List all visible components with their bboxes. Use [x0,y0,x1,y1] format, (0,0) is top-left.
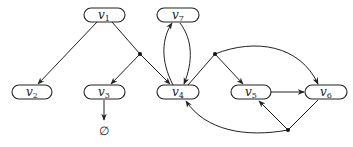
node-v1: v1 [84,8,125,23]
edge-j1-v4 [140,54,170,84]
edge-v1-v2 [38,22,97,84]
hypergraph-diagram: v1 v7 v2 v3 v4 v5 v6 ∅ [0,0,353,147]
junction-dot [138,52,142,56]
edge-j1-v3 [111,54,140,84]
node-v2: v2 [12,85,52,100]
nodes: v1 v7 v2 v3 v4 v5 v6 [12,8,347,100]
edges [38,22,318,133]
edge-v7-v4 [180,23,190,84]
node-v3: v3 [84,85,125,100]
empty-set-symbol: ∅ [99,124,109,138]
node-v6: v6 [305,85,347,100]
edge-j3-v5 [259,101,288,130]
node-v4: v4 [157,85,199,100]
edge-j2-v6 [215,46,318,84]
node-v5: v5 [231,85,271,100]
edge-j2-v5 [215,54,243,84]
edge-j3-v4 [186,101,288,133]
junction-dot [286,128,290,132]
edge-v4-j2 [188,54,215,85]
edge-v1-j1 [112,22,140,54]
node-v7: v7 [157,8,199,23]
edge-v4-v7 [164,23,173,85]
edge-v6-j3 [288,100,318,130]
junction-dot [213,52,217,56]
